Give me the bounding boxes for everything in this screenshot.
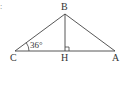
angle-arc-c: [26, 43, 29, 51]
angle-label-c: 36°: [30, 41, 43, 50]
segment-ba: [65, 14, 115, 51]
right-angle-marker: [65, 47, 69, 51]
vertex-label-c: C: [10, 53, 17, 63]
vertex-label-h: H: [61, 53, 68, 63]
geometry-diagram: : B C H A 36°: [0, 0, 124, 109]
corner-mark: :: [0, 3, 2, 11]
vertex-label-b: B: [61, 2, 68, 12]
vertex-label-a: A: [112, 53, 119, 63]
